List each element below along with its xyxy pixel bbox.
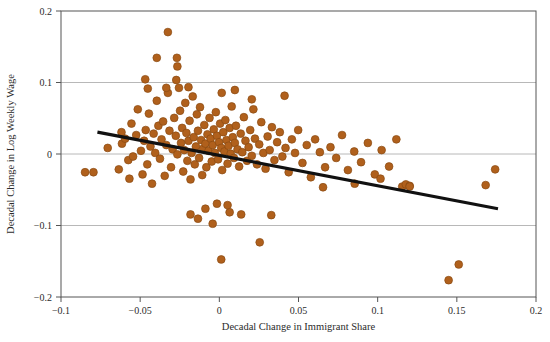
data-point	[221, 116, 229, 124]
y-axis-title: Decadal Change in Log Weekly Wage	[5, 74, 16, 234]
data-point	[344, 166, 352, 174]
data-point	[173, 54, 181, 62]
data-point	[235, 163, 243, 171]
x-axis-title: Decadal Change in Immigrant Share	[222, 321, 376, 332]
data-point	[183, 129, 191, 137]
data-point	[189, 93, 197, 101]
data-point	[162, 84, 170, 92]
data-point	[231, 86, 239, 94]
data-point	[281, 92, 289, 100]
data-point	[125, 175, 133, 183]
data-point	[303, 141, 311, 149]
data-point	[364, 139, 372, 147]
data-point	[193, 110, 201, 118]
x-tick-label: −0.05	[129, 305, 152, 316]
y-tick-label: 0.1	[40, 77, 53, 88]
data-point	[237, 211, 245, 219]
data-point	[311, 135, 319, 143]
data-point	[256, 238, 264, 246]
data-point	[177, 139, 185, 147]
data-point	[316, 148, 324, 156]
data-point	[187, 175, 195, 183]
data-point	[212, 108, 220, 116]
data-point	[183, 157, 191, 165]
data-point	[213, 200, 221, 208]
data-point	[172, 76, 180, 84]
data-point	[145, 110, 153, 118]
data-point	[202, 205, 210, 213]
data-point	[238, 148, 246, 156]
data-point	[200, 121, 208, 129]
data-point	[195, 154, 203, 162]
data-point	[377, 175, 385, 183]
data-point	[327, 143, 335, 151]
x-tick-label: 0.2	[530, 305, 543, 316]
data-point	[128, 120, 136, 128]
data-point	[257, 118, 265, 126]
y-tick-label: −0.2	[34, 292, 52, 303]
data-point	[482, 181, 490, 189]
data-point	[245, 143, 253, 151]
data-point	[185, 83, 193, 91]
data-point	[172, 132, 180, 140]
data-point	[240, 113, 248, 121]
data-point	[176, 107, 184, 115]
chart-canvas: −0.1−0.0500.050.10.150.2−0.2−0.100.10.2D…	[0, 0, 550, 342]
data-point	[378, 146, 386, 154]
data-point	[248, 95, 256, 103]
data-point	[350, 148, 358, 156]
data-point	[153, 54, 161, 62]
data-point	[226, 208, 234, 216]
data-point	[276, 128, 284, 136]
data-point	[392, 135, 400, 143]
data-point	[282, 144, 290, 152]
data-point	[338, 131, 346, 139]
data-point	[142, 126, 150, 134]
data-point	[179, 168, 187, 176]
data-point	[232, 122, 240, 130]
data-point	[237, 130, 245, 138]
data-point	[246, 126, 254, 134]
data-point	[167, 163, 175, 171]
data-point	[104, 144, 112, 152]
data-point	[319, 183, 327, 191]
data-point	[224, 201, 232, 209]
data-point	[81, 168, 89, 176]
data-point	[455, 261, 463, 269]
data-point	[268, 123, 276, 131]
data-point	[357, 158, 365, 166]
data-point	[196, 103, 204, 111]
y-tick-label: 0	[47, 149, 52, 160]
data-point	[166, 127, 174, 135]
data-point	[217, 256, 225, 264]
x-tick-label: −0.1	[52, 305, 70, 316]
data-point	[291, 149, 299, 157]
data-point	[332, 154, 340, 162]
data-point	[273, 138, 281, 146]
data-point	[194, 127, 202, 135]
data-point	[156, 155, 164, 163]
data-point	[228, 103, 236, 111]
data-point	[186, 117, 194, 125]
data-point	[134, 105, 142, 113]
data-point	[175, 84, 183, 92]
data-point	[143, 160, 151, 168]
data-point	[181, 99, 189, 107]
data-point	[198, 171, 206, 179]
data-point	[90, 168, 98, 176]
data-point	[173, 150, 181, 158]
x-tick-label: 0.05	[290, 305, 308, 316]
y-tick-label: 0.2	[40, 6, 53, 17]
data-point	[249, 105, 257, 113]
data-point	[137, 147, 145, 155]
data-point	[248, 152, 256, 160]
data-point	[255, 140, 263, 148]
data-point	[271, 156, 279, 164]
data-point	[288, 135, 296, 143]
data-point	[266, 146, 274, 154]
data-point	[164, 28, 172, 36]
data-point	[159, 118, 167, 126]
data-point	[264, 133, 272, 141]
y-tick-label: −0.1	[34, 220, 52, 231]
data-point	[218, 89, 226, 97]
